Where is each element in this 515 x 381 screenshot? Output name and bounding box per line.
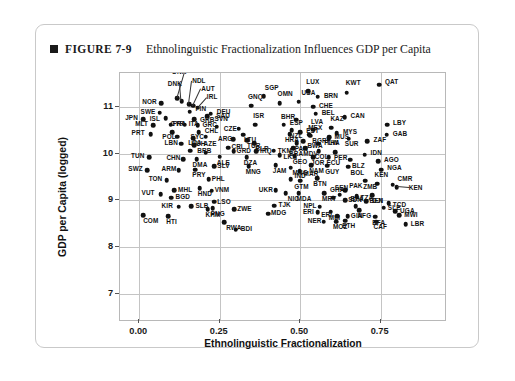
chart-plot: QATLUXKWTBRNSGPNORDNKDNKNDLAUTIRLCHEUSAO… bbox=[36, 25, 480, 349]
scatter-point-label: AZE bbox=[204, 141, 217, 147]
scatter-point-label: LCA bbox=[188, 140, 201, 146]
scatter-point bbox=[331, 195, 336, 200]
scatter-point-label: BOL bbox=[350, 170, 364, 176]
scatter-point bbox=[393, 209, 398, 214]
x-axis-tick-mark bbox=[219, 319, 220, 323]
scatter-point-label: LBY bbox=[393, 120, 406, 126]
scatter-point-label: KEN bbox=[374, 172, 388, 178]
scatter-point-label: TUN bbox=[131, 153, 144, 159]
scatter-point-label: PAK bbox=[349, 183, 362, 189]
scatter-point-label: SWE bbox=[141, 109, 156, 115]
scatter-point bbox=[375, 181, 380, 186]
scatter-point-label: NER bbox=[308, 218, 322, 224]
scatter-point-label: LSO bbox=[217, 199, 230, 205]
x-axis-tick-label: 0.75 bbox=[371, 326, 389, 336]
scatter-point-label: MLT bbox=[135, 121, 148, 127]
scatter-point-label: MHL bbox=[178, 187, 192, 193]
scatter-point bbox=[307, 133, 312, 138]
scatter-point-label: COM bbox=[143, 218, 158, 224]
scatter-point-label: ISR bbox=[253, 113, 264, 119]
scatter-point bbox=[321, 219, 326, 224]
scatter-point-label: ERI bbox=[321, 212, 332, 218]
scatter-point bbox=[187, 110, 192, 115]
scatter-point-label: BDI bbox=[241, 226, 252, 232]
scatter-point-label: LBR bbox=[411, 221, 424, 227]
scatter-point-label: SUR bbox=[345, 141, 359, 147]
scatter-point-label: GEO bbox=[293, 159, 308, 165]
scatter-point-label: ARM bbox=[162, 166, 177, 172]
x-axis-label: Ethnolinguistic Fractionalization bbox=[204, 338, 361, 349]
scatter-point-label: KIR bbox=[162, 203, 173, 209]
y-axis-tick-mark bbox=[115, 106, 119, 107]
scatter-point-label: MOZ bbox=[333, 224, 348, 230]
scatter-point-label: ZAF bbox=[373, 137, 386, 143]
scatter-point-label: BTN bbox=[313, 181, 326, 187]
scatter-point-label: SGP bbox=[265, 85, 279, 91]
y-axis-tick-label: 8 bbox=[91, 241, 113, 251]
scatter-point bbox=[158, 192, 163, 197]
figure-card: FIGURE 7-9 Ethnolinguistic Fractionaliza… bbox=[35, 24, 479, 348]
gridline-horizontal bbox=[120, 294, 445, 295]
scatter-point bbox=[277, 153, 282, 158]
scatter-point bbox=[377, 82, 382, 87]
scatter-point-label: NGA bbox=[387, 165, 402, 171]
scatter-point bbox=[316, 210, 321, 215]
scatter-point-label: KWT bbox=[346, 80, 361, 86]
y-axis-tick-mark bbox=[115, 246, 119, 247]
scatter-point bbox=[272, 149, 277, 154]
scatter-point-label: USA bbox=[302, 90, 316, 96]
y-axis-tick-label: 10 bbox=[91, 148, 113, 158]
scatter-point bbox=[203, 150, 208, 155]
scatter-point-label: GUY bbox=[325, 169, 339, 175]
scatter-point bbox=[212, 200, 217, 205]
scatter-point-label: FIN bbox=[196, 106, 207, 112]
scatter-point bbox=[236, 126, 241, 131]
scatter-point-label: CHN bbox=[166, 155, 180, 161]
scatter-point bbox=[209, 188, 214, 193]
label-leader-line bbox=[188, 81, 192, 104]
plot-area: QATLUXKWTBRNSGPNORDNKDNKNDLAUTIRLCHEUSAO… bbox=[119, 72, 446, 321]
x-axis-tick-mark bbox=[380, 319, 381, 323]
scatter-point-label: SLV bbox=[217, 163, 229, 169]
scatter-point-label: BLZ bbox=[352, 163, 365, 169]
scatter-point-label: CYP bbox=[170, 121, 183, 127]
scatter-point bbox=[189, 204, 194, 209]
scatter-point-label: ZWE bbox=[237, 206, 252, 212]
scatter-point-label: UKR bbox=[259, 187, 273, 193]
scatter-point-label: BGD bbox=[175, 194, 190, 200]
x-axis-tick-label: 0.00 bbox=[129, 326, 147, 336]
scatter-point bbox=[335, 214, 340, 219]
scatter-point bbox=[163, 116, 168, 121]
scatter-point bbox=[277, 101, 282, 106]
scatter-point-label: CZE bbox=[224, 126, 237, 132]
y-axis-tick-mark bbox=[115, 153, 119, 154]
x-axis-tick-mark bbox=[299, 319, 300, 323]
scatter-point-label: SWZ bbox=[128, 166, 143, 172]
scatter-point bbox=[288, 177, 293, 182]
scatter-point-label: JAM bbox=[273, 168, 287, 174]
scatter-point-label: BFA bbox=[351, 196, 364, 202]
scatter-point-label: CHE bbox=[319, 103, 333, 109]
scatter-point bbox=[249, 104, 254, 109]
scatter-point-label: IDN bbox=[371, 150, 382, 156]
scatter-point bbox=[296, 99, 301, 104]
scatter-point-label: PHL bbox=[212, 176, 225, 182]
scatter-point-label: ARG bbox=[218, 136, 233, 142]
scatter-point-label: PRY bbox=[192, 172, 205, 178]
scatter-point bbox=[148, 132, 153, 137]
scatter-point-label: IRQ bbox=[260, 148, 272, 154]
scatter-point-label: KAZ bbox=[330, 116, 343, 122]
scatter-point bbox=[253, 122, 258, 127]
scatter-point bbox=[195, 123, 200, 128]
x-axis-tick-mark bbox=[138, 319, 139, 323]
scatter-point-label: NDL bbox=[192, 78, 205, 84]
scatter-point bbox=[343, 198, 348, 203]
scatter-point-label: LBN bbox=[164, 140, 177, 146]
scatter-point-label: VNM bbox=[215, 187, 230, 193]
scatter-point-label: OMN bbox=[278, 91, 293, 97]
scatter-point-label: QAT bbox=[385, 79, 398, 85]
scatter-point-label: ESP bbox=[290, 120, 303, 126]
scatter-point-label: PRT bbox=[132, 130, 145, 136]
scatter-point-label: MEX bbox=[308, 125, 322, 131]
scatter-point-label: PLW bbox=[324, 140, 338, 146]
